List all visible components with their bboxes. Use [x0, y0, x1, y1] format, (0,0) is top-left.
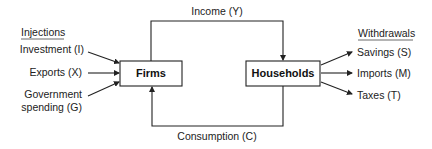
savings-arrow [321, 52, 352, 65]
withdrawals-heading: Withdrawals [358, 27, 415, 39]
imports-label: Imports (M) [357, 67, 411, 79]
injections-heading: Injections [21, 26, 65, 38]
income-label: Income (Y) [191, 5, 242, 17]
taxes-label: Taxes (T) [357, 89, 401, 101]
income-flow-arrow [151, 21, 283, 61]
taxes-arrow [321, 82, 352, 94]
consumption-label: Consumption (C) [177, 130, 256, 142]
investment-label: Investment (I) [20, 43, 84, 55]
government-label-line2: spending (G) [21, 101, 82, 113]
savings-label: Savings (S) [357, 46, 411, 58]
circular-flow-diagram: Income (Y) Consumption (C) Firms Househo… [0, 0, 432, 149]
consumption-flow-arrow [152, 86, 283, 126]
households-label: Households [252, 67, 315, 79]
firms-label: Firms [136, 67, 166, 79]
government-spending-arrow [88, 82, 119, 96]
investment-arrow [88, 52, 119, 63]
government-label-line1: Government [24, 88, 82, 100]
exports-label: Exports (X) [29, 66, 82, 78]
